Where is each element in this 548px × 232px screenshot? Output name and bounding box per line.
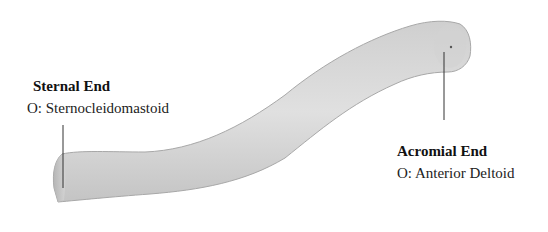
sternal-end-label: Sternal End O: Sternocleidomastoid xyxy=(33,79,169,116)
sternal-end-title: Sternal End xyxy=(33,79,169,94)
sternal-end-facet xyxy=(53,154,65,202)
acromial-end-facet xyxy=(434,24,466,68)
acromial-end-label: Acromial End O: Anterior Deltoid xyxy=(397,144,514,181)
acromial-end-title: Acromial End xyxy=(397,144,514,159)
clavicle-diagram xyxy=(0,0,548,232)
acromial-end-origin: O: Anterior Deltoid xyxy=(397,166,514,181)
acromial-foramen-dot xyxy=(450,46,452,48)
sternal-end-origin: O: Sternocleidomastoid xyxy=(27,101,169,116)
